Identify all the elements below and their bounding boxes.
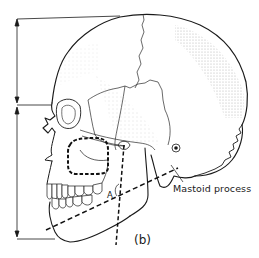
mastoid-process-label: Mastoid process	[173, 183, 251, 194]
angle-arc	[115, 184, 119, 196]
orbit	[56, 99, 80, 128]
angle-label: A	[107, 190, 113, 200]
frontal-stipple	[58, 42, 100, 85]
parietal-stipple	[175, 25, 244, 118]
temporal-stipple	[95, 75, 160, 145]
skull-figure: Mastoid process A (b)	[0, 0, 259, 258]
skull-drawing	[0, 0, 259, 258]
maxillary-sinus-outline	[68, 138, 108, 174]
teeth	[47, 183, 102, 209]
ear-canal	[172, 144, 180, 152]
panel-label: (b)	[134, 233, 151, 247]
maxilla-body	[80, 150, 108, 183]
